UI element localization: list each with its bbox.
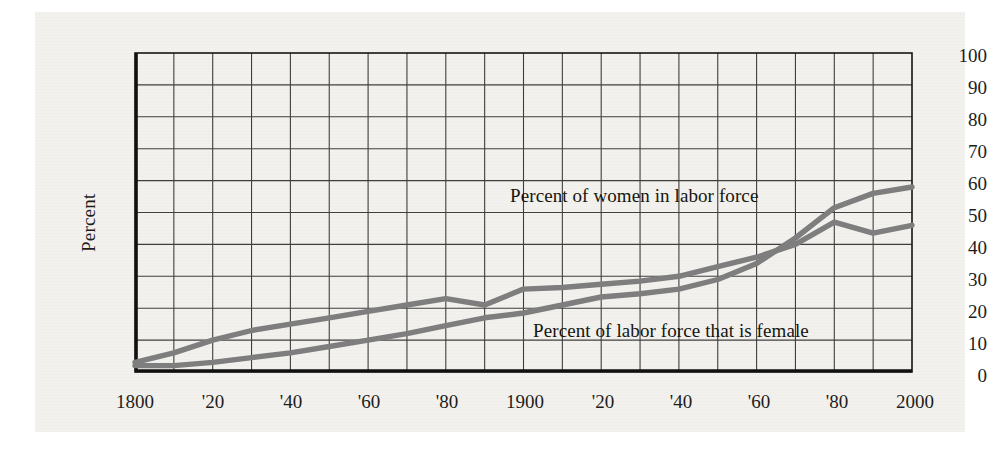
line-chart-figure: Percent 100 90 80 70 60 50 40 30 20 10 0… [0, 0, 987, 455]
annotation-labor-force-that-is-female: Percent of labor force that is female [533, 320, 809, 342]
chart-page: Percent 100 90 80 70 60 50 40 30 20 10 0… [0, 0, 987, 455]
annotation-women-in-labor-force: Percent of women in labor force [510, 185, 758, 207]
plot-area [0, 0, 987, 455]
